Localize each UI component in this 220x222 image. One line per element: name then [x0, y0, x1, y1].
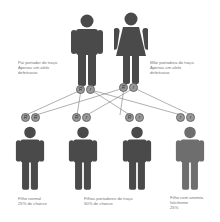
child-1-allele-1: R — [21, 113, 30, 122]
child-4-allele-1: r — [176, 113, 185, 122]
mother-allele-2: r — [129, 83, 138, 92]
child-3-allele-2: r — [135, 113, 144, 122]
child-4-figure-icon — [175, 125, 205, 191]
child-2-allele-2: r — [82, 113, 91, 122]
father-allele-2: r — [86, 85, 95, 94]
mother-figure-icon — [114, 12, 148, 84]
child-2-allele-1: R — [72, 113, 81, 122]
child-2-figure-icon — [68, 125, 98, 191]
child-2-3-caption: Filhos portadores do traço 50% de chance — [84, 196, 144, 206]
child-3-allele-1: R — [125, 113, 134, 122]
mother-allele-1: R — [119, 83, 128, 92]
child-4-caption: Filho com anemia falciforme 25% — [170, 195, 218, 210]
child-1-figure-icon — [15, 125, 45, 191]
child-3-figure-icon — [122, 125, 152, 191]
father-caption: Pai portador do traço. Apenas um alelo d… — [18, 60, 70, 75]
father-allele-1: R — [76, 85, 85, 94]
inheritance-diagram: R r R r Pai portador do traço. Apenas um… — [0, 0, 220, 222]
mother-caption: Mãe portadora do traço. Apenas um alelo … — [150, 60, 206, 75]
father-figure-icon — [70, 14, 104, 86]
child-1-allele-2: R — [31, 113, 40, 122]
child-4-allele-2: r — [186, 113, 195, 122]
child-1-caption: Filho normal 25% de chance — [18, 196, 68, 206]
